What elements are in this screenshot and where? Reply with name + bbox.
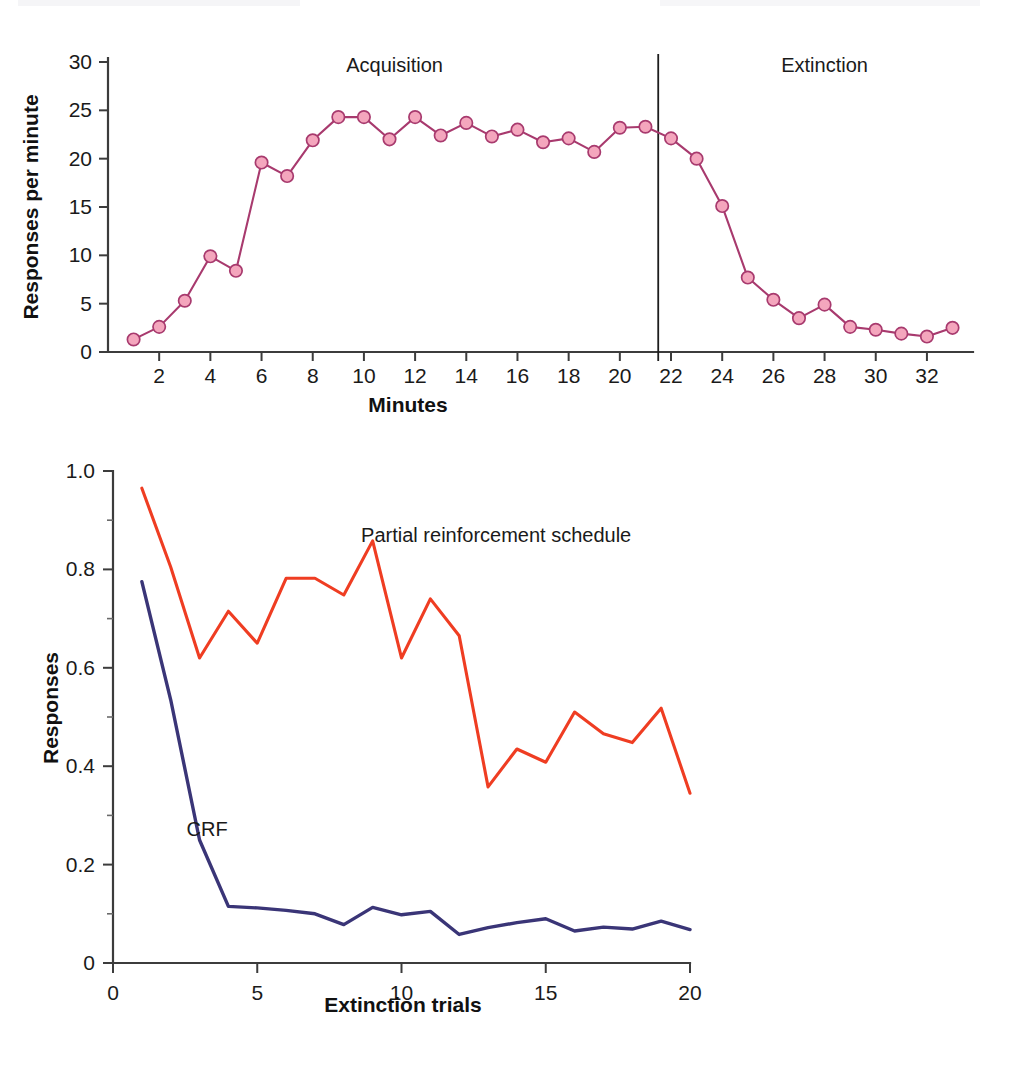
- bottom-series-group: [142, 488, 690, 934]
- data-point-marker: [562, 132, 574, 144]
- top-x-tick-label: 26: [762, 364, 785, 387]
- top-y-tick-label: 30: [69, 50, 92, 73]
- bottom-y-tick-label: 0.8: [66, 557, 95, 580]
- top-y-tick-label: 20: [69, 147, 92, 170]
- bottom-y-axis-title: Responses: [39, 652, 62, 764]
- data-point-marker: [281, 170, 293, 182]
- data-point-marker: [844, 321, 856, 333]
- extinction-trials-chart: 1.00.80.60.40.20 05101520 Partial reinfo…: [0, 430, 1012, 1072]
- top-x-tick-label: 6: [256, 364, 268, 387]
- data-point-marker: [818, 298, 830, 310]
- data-point-marker: [690, 152, 702, 164]
- data-point-marker: [204, 250, 216, 262]
- top-x-tick-label: 30: [864, 364, 887, 387]
- data-point-marker: [537, 136, 549, 148]
- top-chart-axes: [99, 54, 973, 361]
- bottom-y-tick-labels: 1.00.80.60.40.20: [66, 459, 96, 974]
- top-y-tick-label: 15: [69, 195, 92, 218]
- top-x-tick-label: 16: [506, 364, 529, 387]
- top-y-tick-label: 25: [69, 98, 92, 121]
- data-point-marker: [767, 294, 779, 306]
- data-point-marker: [127, 333, 139, 345]
- bottom-series-labels: Partial reinforcement scheduleCRF: [187, 524, 632, 840]
- top-x-tick-label: 10: [352, 364, 375, 387]
- top-x-tick-label: 2: [153, 364, 165, 387]
- top-y-axis-title: Responses per minute: [19, 94, 42, 319]
- data-point-marker: [588, 146, 600, 158]
- extinction-trials-figure: 1.00.80.60.40.20 05101520 Partial reinfo…: [0, 430, 1012, 1072]
- acquisition-phase-label: Acquisition: [346, 54, 443, 76]
- data-point-marker: [639, 121, 651, 133]
- data-point-marker: [665, 132, 677, 144]
- top-y-tick-label: 5: [80, 292, 92, 315]
- bottom-y-tick-label: 0: [83, 951, 95, 974]
- top-x-tick-label: 32: [915, 364, 938, 387]
- bottom-y-tick-label: 0.6: [66, 656, 95, 679]
- data-point-marker: [486, 130, 498, 142]
- data-point-marker: [870, 324, 882, 336]
- data-point-marker: [332, 111, 344, 123]
- top-x-tick-label: 20: [608, 364, 631, 387]
- top-axis-frame: [108, 58, 973, 352]
- data-point-marker: [511, 123, 523, 135]
- acquisition-extinction-figure: 302520151050 246810121416182022242628303…: [0, 0, 1012, 430]
- bottom-x-axis-title: Extinction trials: [324, 993, 482, 1016]
- top-x-axis-title: Minutes: [368, 393, 447, 416]
- data-point-marker: [358, 111, 370, 123]
- data-point-marker: [307, 134, 319, 146]
- bottom-x-tick-label: 0: [107, 981, 119, 1004]
- bottom-x-tick-label: 5: [251, 981, 263, 1004]
- top-y-tick-labels: 302520151050: [69, 50, 92, 363]
- partial-reinforcement-label: Partial reinforcement schedule: [361, 524, 631, 546]
- crf-label: CRF: [187, 818, 228, 840]
- top-y-tick-label: 10: [69, 243, 92, 266]
- top-x-tick-label: 14: [455, 364, 479, 387]
- top-x-tick-label: 22: [659, 364, 682, 387]
- bottom-y-tick-label: 0.2: [66, 853, 95, 876]
- data-point-marker: [255, 156, 267, 168]
- top-x-tick-label: 24: [711, 364, 735, 387]
- data-point-marker: [383, 133, 395, 145]
- top-x-tick-label: 4: [205, 364, 217, 387]
- data-point-marker: [895, 327, 907, 339]
- data-point-marker: [614, 122, 626, 134]
- data-point-marker: [409, 111, 421, 123]
- top-x-tick-label: 18: [557, 364, 580, 387]
- data-point-marker: [793, 312, 805, 324]
- data-point-marker: [434, 129, 446, 141]
- bottom-y-tick-label: 0.4: [66, 754, 96, 777]
- top-x-tick-labels: 2468101214161820222426283032: [153, 364, 938, 387]
- acquisition-extinction-chart: 302520151050 246810121416182022242628303…: [0, 0, 1012, 430]
- crf-line: [142, 582, 690, 935]
- data-point-marker: [153, 321, 165, 333]
- data-point-marker: [742, 271, 754, 283]
- top-x-tick-label: 28: [813, 364, 836, 387]
- extinction-phase-label: Extinction: [781, 54, 868, 76]
- bottom-x-tick-label: 20: [678, 981, 701, 1004]
- data-point-marker: [716, 200, 728, 212]
- bottom-y-tick-label: 1.0: [66, 459, 95, 482]
- top-marker-group: [127, 111, 958, 346]
- top-y-tick-label: 0: [80, 340, 92, 363]
- data-point-marker: [179, 295, 191, 307]
- data-point-marker: [230, 265, 242, 277]
- top-x-tick-label: 12: [403, 364, 426, 387]
- top-x-tick-label: 8: [307, 364, 319, 387]
- top-phase-labels: AcquisitionExtinction: [346, 54, 868, 76]
- data-point-marker: [460, 117, 472, 129]
- bottom-x-tick-label: 15: [534, 981, 557, 1004]
- data-point-marker: [921, 330, 933, 342]
- data-point-marker: [946, 322, 958, 334]
